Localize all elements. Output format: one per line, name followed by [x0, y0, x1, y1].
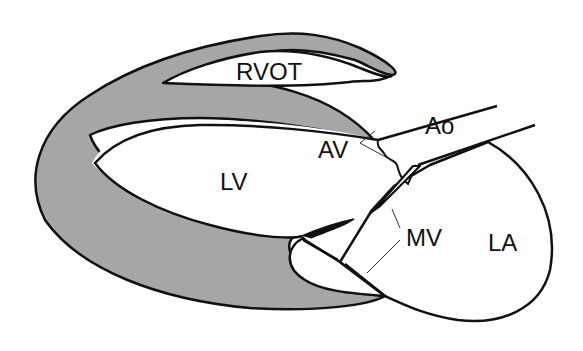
- label-la: LA: [488, 229, 517, 256]
- label-lv: LV: [220, 168, 248, 195]
- label-mv: MV: [406, 224, 442, 251]
- label-av: AV: [318, 136, 348, 163]
- label-ao: Ao: [425, 112, 454, 139]
- label-rvot: RVOT: [236, 58, 303, 85]
- heart-diagram: RVOT Ao AV LV MV LA: [0, 0, 583, 351]
